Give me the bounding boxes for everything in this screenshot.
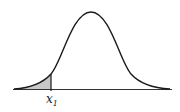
bell-curve [14, 12, 170, 89]
normal-curve-diagram: x1 [0, 0, 180, 112]
x1-label: x1 [46, 92, 58, 108]
shaded-left-tail [13, 74, 51, 89]
